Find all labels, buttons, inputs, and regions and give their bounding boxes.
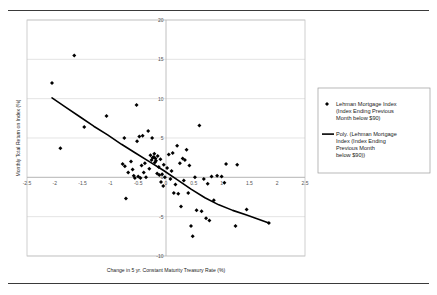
scatter-point — [140, 164, 144, 168]
y-tick-label: 15 — [158, 56, 164, 62]
scatter-point — [175, 144, 179, 148]
scatter-point — [135, 139, 139, 143]
scatter-point — [141, 134, 145, 138]
scatter-point — [143, 161, 147, 165]
legend-entry-label: below $90)) — [336, 152, 365, 158]
scatter-point — [122, 136, 126, 140]
scatter-point — [179, 204, 183, 208]
scatter-point — [195, 208, 199, 212]
scatter-point — [126, 171, 130, 175]
x-tick-label: 0.5 — [190, 180, 197, 186]
legend-entry-label: Poly. (Lehman Mortgage — [336, 131, 397, 137]
scatter-point — [191, 234, 195, 238]
scatter-point — [150, 136, 154, 140]
scatter-point — [172, 191, 176, 195]
scatter-chart: -10-505101520 -2.5-2-1.5-1-0.500.511.522… — [0, 0, 437, 295]
x-tick-label: -0.5 — [134, 180, 143, 186]
scatter-point — [124, 197, 128, 201]
x-tick-label: 2 — [276, 180, 279, 186]
scatter-point — [234, 224, 238, 228]
x-tick-label: -2.5 — [23, 180, 32, 186]
x-tick-label: -1 — [108, 180, 113, 186]
scatter-point — [267, 221, 271, 225]
scatter-point — [159, 180, 163, 184]
scatter-point — [135, 103, 139, 107]
scatter-point — [220, 175, 224, 179]
scatter-point — [131, 167, 135, 171]
scatter-point — [72, 53, 76, 57]
x-tick-label: -1.5 — [78, 180, 87, 186]
x-tick-label: -2 — [53, 180, 58, 186]
scatter-point — [235, 163, 239, 167]
figure-container: -10-505101520 -2.5-2-1.5-1-0.500.511.522… — [0, 0, 437, 295]
scatter-point — [129, 160, 133, 164]
legend-entry-label: (Index Ending Previous — [336, 108, 394, 114]
scatter-point — [105, 114, 109, 118]
scatter-point — [82, 125, 86, 129]
y-tick-label: 20 — [158, 17, 164, 23]
scatter-point — [58, 146, 62, 150]
scatter-point — [142, 171, 146, 175]
x-tick-label: 0 — [165, 180, 168, 186]
legend-entry-label: Lehman Mortgage Index — [336, 101, 397, 107]
scatter-point — [224, 162, 228, 166]
legend-entry-label: Index (Index Ending — [336, 138, 386, 144]
scatter-points — [50, 53, 271, 238]
scatter-point — [152, 152, 156, 156]
scatter-point — [158, 157, 162, 161]
y-tick-label: 5 — [161, 135, 164, 141]
legend-entry-label: Month below $90) — [336, 115, 381, 121]
scatter-point — [210, 175, 214, 179]
scatter-point — [206, 182, 210, 186]
x-tick-label: 2.5 — [302, 180, 309, 186]
scatter-point — [189, 224, 193, 228]
scatter-point — [207, 219, 211, 223]
y-axis-title: Monthly Total Return on Index (%) — [15, 99, 21, 176]
scatter-point — [146, 129, 150, 133]
scatter-point — [182, 178, 186, 182]
scatter-point — [147, 167, 151, 171]
scatter-point — [186, 191, 190, 195]
scatter-point — [176, 192, 180, 196]
legend-box: Lehman Mortgage Index(Index Ending Previ… — [318, 88, 430, 173]
y-tick-label: 10 — [158, 96, 164, 102]
scatter-point — [187, 164, 191, 168]
x-tick-labels: -2.5-2-1.5-1-0.500.511.522.5 — [23, 180, 309, 186]
scatter-point — [50, 81, 54, 85]
scatter-point — [185, 148, 189, 152]
scatter-point — [200, 209, 204, 213]
scatter-point — [245, 208, 249, 212]
scatter-point — [193, 175, 197, 179]
scatter-point — [144, 175, 148, 179]
scatter-point — [178, 161, 182, 165]
y-tick-label: -10 — [156, 253, 163, 259]
x-tick-label: 1.5 — [246, 180, 253, 186]
legend-entry-label: Previous Month — [336, 145, 375, 151]
x-axis-title: Change in 5 yr. Constant Maturity Treasu… — [107, 267, 226, 273]
scatter-point — [197, 123, 201, 127]
scatter-point — [167, 153, 171, 157]
scatter-point — [170, 169, 174, 173]
scatter-point — [171, 151, 175, 155]
scatter-point — [173, 182, 177, 186]
y-tick-label: -5 — [159, 214, 164, 220]
scatter-point — [162, 163, 166, 167]
